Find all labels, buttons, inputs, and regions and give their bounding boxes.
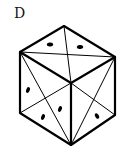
- dot-icon: [47, 42, 54, 47]
- dot-icon: [57, 106, 62, 113]
- dot-icon: [94, 113, 100, 120]
- dot-icon: [77, 45, 84, 50]
- dot-icon: [40, 114, 45, 121]
- dot-icon: [25, 87, 30, 94]
- cube-figure: [0, 0, 128, 155]
- right-face-diagonal: [71, 83, 115, 115]
